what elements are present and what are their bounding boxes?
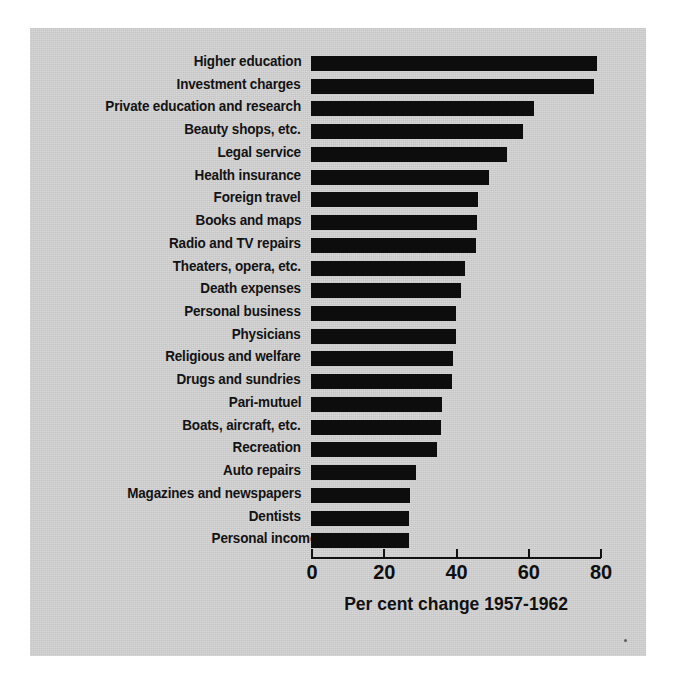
bar (311, 170, 489, 185)
bar (311, 238, 476, 253)
bar-category-label: Death expenses (200, 280, 301, 296)
bar (311, 192, 478, 207)
bar (311, 79, 594, 94)
bar-row: Magazines and newspapers (0, 485, 673, 508)
bar-category-label: Theaters, opera, etc. (173, 258, 301, 274)
bar-category-label: Drugs and sundries (177, 371, 301, 387)
bar (311, 397, 442, 412)
bar-category-label: Auto repairs (223, 462, 301, 478)
bar-category-label: Pari-mutuel (228, 394, 301, 410)
bar-category-label: Religious and welfare (165, 348, 301, 364)
bar (311, 374, 452, 389)
bar-row: Personal income (0, 530, 673, 553)
bar-row: Personal business (0, 303, 673, 326)
bar-row: Religious and welfare (0, 348, 673, 371)
bar-category-label: Recreation (233, 439, 301, 455)
bar (311, 465, 416, 480)
bar-row: Recreation (0, 439, 673, 462)
bar-row: Private education and research (0, 98, 673, 121)
bar (311, 533, 409, 548)
bar-category-label: Foreign travel (214, 189, 301, 205)
bar-row: Higher education (0, 53, 673, 76)
bar (311, 306, 456, 321)
bar (311, 215, 477, 230)
bar (311, 56, 597, 71)
x-axis-tick-label: 40 (445, 561, 467, 584)
bar (311, 442, 437, 457)
bar (311, 351, 453, 366)
bar-chart-plot-area: Higher educationInvestment chargesPrivat… (0, 0, 673, 682)
bar (311, 101, 534, 116)
bar-category-label: Boats, aircraft, etc. (183, 417, 301, 433)
bar (311, 283, 461, 298)
bar (311, 124, 523, 139)
x-axis-tick-label: 60 (518, 561, 540, 584)
bar-category-label: Private education and research (105, 98, 301, 114)
x-axis-tick-label: 20 (373, 561, 395, 584)
bar-category-label: Higher education (193, 53, 301, 69)
x-axis-tick (311, 549, 313, 558)
chart-figure: Higher educationInvestment chargesPrivat… (0, 0, 673, 682)
x-axis-tick-label: 0 (306, 561, 317, 584)
bar-category-label: Legal service (217, 144, 301, 160)
bar-category-label: Magazines and newspapers (127, 485, 301, 501)
bar-category-label: Dentists (249, 508, 301, 524)
bar-row: Dentists (0, 508, 673, 531)
bar (311, 261, 465, 276)
bar-category-label: Physicians (232, 326, 301, 342)
bar (311, 511, 409, 526)
bar (311, 329, 456, 344)
bar-row: Beauty shops, etc. (0, 121, 673, 144)
bar-category-label: Personal business (184, 303, 301, 319)
bar-category-label: Health insurance (195, 167, 301, 183)
x-axis-tick (456, 549, 458, 558)
x-axis-tick (383, 549, 385, 558)
bar-row: Foreign travel (0, 189, 673, 212)
x-axis-tick-label: 80 (590, 561, 612, 584)
bar-row: Health insurance (0, 167, 673, 190)
x-axis-tick (600, 549, 602, 558)
bar-row: Auto repairs (0, 462, 673, 485)
bar-category-label: Personal income (211, 530, 317, 546)
bar-category-label: Beauty shops, etc. (184, 121, 301, 137)
bar-row: Theaters, opera, etc. (0, 258, 673, 281)
bar (311, 420, 441, 435)
bar (311, 147, 507, 162)
bar-category-label: Investment charges (177, 76, 301, 92)
bar-row: Legal service (0, 144, 673, 167)
bar-category-label: Radio and TV repairs (169, 235, 301, 251)
bar-row: Radio and TV repairs (0, 235, 673, 258)
bar-row: Physicians (0, 326, 673, 349)
bar-row: Books and maps (0, 212, 673, 235)
bar (311, 488, 410, 503)
bar-row: Investment charges (0, 76, 673, 99)
x-axis-tick (528, 549, 530, 558)
bar-row: Drugs and sundries (0, 371, 673, 394)
bar-row: Death expenses (0, 280, 673, 303)
x-axis-title: Per cent change 1957-1962 (311, 594, 601, 615)
bar-category-label: Books and maps (195, 212, 301, 228)
bar-row: Boats, aircraft, etc. (0, 417, 673, 440)
bar-row: Pari-mutuel (0, 394, 673, 417)
